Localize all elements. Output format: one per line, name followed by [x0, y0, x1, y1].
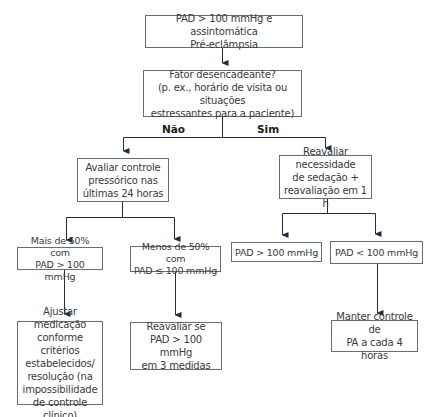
node-trigger: Fator desencadeante? (p. ex., horário de… — [143, 70, 302, 117]
node-more-50: Mais de 50% com PAD > 100 mmHg — [17, 247, 103, 270]
node-start: PAD > 100 mmHg e assintomática Pré-eclâm… — [145, 15, 303, 48]
node-reassess-sedation: Reavaliar necessidade de sedação + reava… — [279, 155, 372, 199]
node-reassess-if: Reavaliar se PAD > 100 mmHg em 3 medidas — [130, 322, 222, 370]
flowchart: PAD > 100 mmHg e assintomática Pré-eclâm… — [0, 0, 443, 417]
node-pad-below: PAD < 100 mmHg — [330, 241, 423, 264]
node-evaluate-control: Avaliar controle pressórico nas últimas … — [77, 158, 169, 202]
branch-label-yes: Sim — [257, 123, 279, 135]
branch-label-no: Não — [162, 123, 185, 135]
node-maintain-control: Manter controle de PA a cada 4 horas — [331, 320, 418, 352]
node-less-50: Menos de 50% com PAD ≤ 100 mmHg — [130, 246, 221, 272]
node-pad-above: PAD > 100 mmHg — [231, 242, 322, 262]
node-adjust-medication: Ajustar medicação conforme critérios est… — [17, 321, 103, 405]
